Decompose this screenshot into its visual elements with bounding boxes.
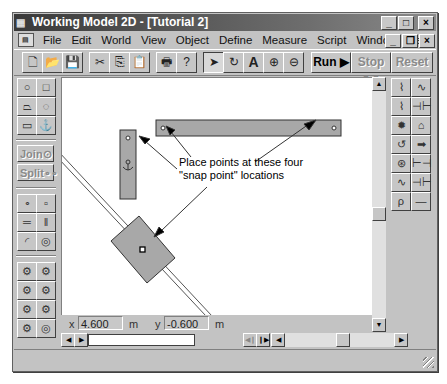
circle-tool-icon[interactable]: ○ [17,78,37,97]
square-point-tool-icon[interactable]: ▫ [36,194,56,213]
scroll-up-button[interactable]: ▲ [372,77,386,91]
y-unit: m [215,318,224,330]
doc-restore-button[interactable]: ❐ [402,34,418,48]
doc-close-button[interactable]: × [419,34,435,48]
cut-icon[interactable]: ✂ [89,52,110,73]
menu-file[interactable]: File [38,34,67,46]
actuator-icon[interactable]: ⊢⊣ [411,154,431,173]
rigid-joint-alt-icon[interactable]: ⚙ [36,300,56,319]
annotation-line-2: "snap point" locations [179,169,303,182]
menu-world[interactable]: World [96,34,136,46]
print-icon[interactable]: 🖶 [156,52,177,73]
slot-joint-icon[interactable]: ⚙ [17,281,37,300]
vertical-scrollbar[interactable]: ▲ ▼ [372,77,386,332]
x-unit: m [129,318,138,330]
reset-button[interactable]: Reset [391,52,433,73]
copy-icon[interactable]: ⎘ [109,52,130,73]
stop-button[interactable]: Stop ❚❚ [351,52,391,73]
canvas-drawing [62,78,373,316]
damper-icon[interactable]: ⊣⊢ [411,97,431,116]
scroll-down-button[interactable]: ▼ [372,318,386,332]
menu-define[interactable]: Define [214,34,257,46]
menu-edit[interactable]: Edit [66,34,96,46]
pulley-icon[interactable]: ⌂ [411,116,431,135]
text-tool-icon[interactable]: A [243,52,264,73]
menu-view[interactable]: View [136,34,171,46]
split-button[interactable]: Split∘∘ [17,164,54,181]
resize-grip[interactable] [423,357,434,368]
y-label: y [155,318,161,330]
coordinate-bar: x 4.600 m y -0.600 m [61,315,372,332]
rectangle-tool-icon[interactable]: ▭ [17,116,37,135]
scroll-right-button[interactable]: ▶ [394,333,408,347]
slot-joint-alt-icon[interactable]: ⚙ [36,281,56,300]
window-title: Working Model 2D - [Tutorial 2] [32,14,208,31]
left-tool-palette: ○ □ ⏢ ◌ ▭ ⚓ Join⊙ Split∘∘ ∘ ▫ ═ ‖ ◜ ◎ ⚙ … [14,75,57,369]
rigid-joint-icon[interactable]: ⚙ [17,300,37,319]
pin-joint-icon[interactable]: ⚙ [17,262,37,281]
gear-icon[interactable]: ✹ [391,116,411,135]
tape-play-button[interactable]: ▶ [74,333,88,347]
spring-icon[interactable]: ∿ [411,78,431,97]
curved-body-tool-icon[interactable]: ◌ [36,97,56,116]
zoom-out-icon[interactable]: ⊖ [283,52,304,73]
separator-icon[interactable]: — [411,192,431,211]
close-button[interactable]: × [418,16,434,30]
pin-joint-alt-icon[interactable]: ⚙ [36,262,56,281]
palette-divider [16,187,56,189]
run-button[interactable]: Run ▶ [311,52,351,73]
curved-slot-tool-icon[interactable]: ◜ [17,232,37,251]
app-window: ▦ Working Model 2D - [Tutorial 2] _ □ × … [12,12,438,372]
new-file-icon[interactable]: 🗋 [22,52,43,73]
step-back-button[interactable]: ◀❙ [243,333,257,347]
maximize-button[interactable]: □ [398,16,414,30]
help-icon[interactable]: ? [176,52,197,73]
rotational-damper-icon[interactable]: ⊣⊢ [411,173,431,192]
step-forward-button[interactable]: ❙▶ [256,333,270,347]
motor-icon[interactable]: ↺ [391,135,411,154]
keyed-joint-alt-icon[interactable]: ◎ [36,319,56,338]
minimize-button[interactable]: _ [381,16,397,30]
tape-rewind-button[interactable]: ◀ [61,333,75,347]
app-icon: ▦ [16,16,30,29]
scroll-left-button[interactable]: ◀ [271,333,285,347]
x-coordinate-field[interactable]: 4.600 [78,316,123,330]
rotate-icon[interactable]: ↻ [223,52,244,73]
open-folder-icon[interactable]: 📂 [42,52,63,73]
keyed-slot-tool-icon[interactable]: ◎ [36,232,56,251]
right-tool-palette: ⌇ ∿ ⌇ ⊣⊢ ✹ ⌂ ↺ ➡ ⊛ ⊢⊣ ∿ ⊣⊢ ρ — [390,75,435,369]
zoom-in-icon[interactable]: ⊕ [263,52,284,73]
document-icon[interactable]: ▤ [18,33,34,47]
vertical-slot-tool-icon[interactable]: ‖ [36,213,56,232]
y-coordinate-field[interactable]: -0.600 [164,316,209,330]
join-button[interactable]: Join⊙ [17,145,54,162]
spring-damper-icon[interactable]: ⌇ [391,97,411,116]
point-tool-icon[interactable]: ∘ [17,194,37,213]
square-tool-icon[interactable]: □ [36,78,56,97]
vertical-bar [120,130,136,199]
paste-icon[interactable]: 📋 [129,52,150,73]
horizontal-scroll-thumb[interactable] [336,333,350,347]
status-bar [14,349,436,370]
title-bar[interactable]: ▦ Working Model 2D - [Tutorial 2] _ □ × [14,14,436,31]
save-disk-icon[interactable]: 💾 [62,52,83,73]
anchor-tool-icon[interactable]: ⚓ [36,116,56,135]
annotation-line-1: Place points at these four [179,156,303,169]
rod-spring-icon[interactable]: ⌇ [391,78,411,97]
rope-icon[interactable]: ρ [391,192,411,211]
tape-recorder-bar[interactable] [88,334,195,346]
vertical-scroll-thumb[interactable] [372,207,386,221]
menu-measure[interactable]: Measure [257,34,312,46]
menu-object[interactable]: Object [171,34,214,46]
arrow-select-icon[interactable]: ➤ [203,52,224,73]
rotational-spring-icon[interactable]: ∿ [391,173,411,192]
horizontal-scrollbar[interactable]: ◀ ▶ [271,333,408,347]
torque-icon[interactable]: ⊛ [391,154,411,173]
keyed-joint-icon[interactable]: ⚙ [17,319,37,338]
polygon-tool-icon[interactable]: ⏢ [17,97,37,116]
menu-script[interactable]: Script [312,34,351,46]
doc-minimize-button[interactable]: _ [385,34,401,48]
simulation-canvas[interactable]: Place points at these four "snap point" … [61,77,374,317]
horizontal-slot-tool-icon[interactable]: ═ [17,213,37,232]
force-arrow-icon[interactable]: ➡ [411,135,431,154]
